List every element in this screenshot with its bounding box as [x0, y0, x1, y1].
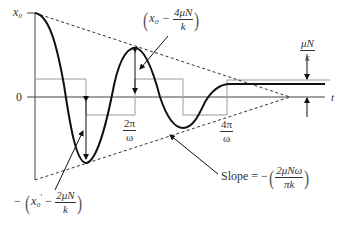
- zero-label: 0: [16, 91, 22, 103]
- x0-label: x₀: [13, 6, 23, 18]
- slope-leader: [170, 135, 218, 174]
- peak2-annotation: (x₀ − 4μNk): [142, 7, 201, 32]
- band-annotation: μNk: [300, 38, 315, 63]
- slope-annotation: Slope = −(2μNωπk): [221, 165, 311, 190]
- t-axis-label: t: [331, 92, 334, 103]
- tick-2pi-label: 2πω: [123, 118, 136, 143]
- peak2-leader: [140, 36, 168, 69]
- trough1-annotation: − (x₀′ − 2μNk): [14, 190, 83, 215]
- tick-4pi-label: 4πω: [220, 119, 233, 144]
- trough1-leader: [55, 131, 83, 190]
